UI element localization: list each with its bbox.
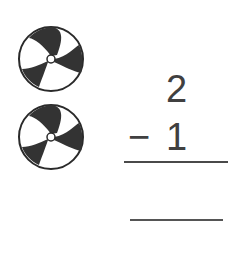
answer-blank[interactable] [130,219,223,221]
minus-sign: − [128,118,150,156]
minuend: 2 [166,70,187,108]
beach-ball-icon [17,25,85,93]
subtrahend: 1 [166,118,187,156]
beach-ball-icon [17,103,85,171]
sum-line [124,161,228,163]
